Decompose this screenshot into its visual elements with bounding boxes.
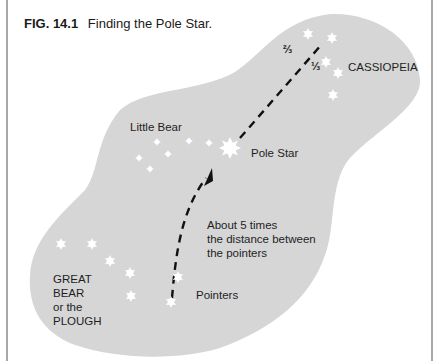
label-one-third: ⅓ — [311, 60, 320, 72]
great-bear-line-1: GREAT — [53, 272, 102, 286]
label-two-thirds: ⅔ — [283, 43, 292, 55]
great-bear-line-4: PLOUGH — [53, 314, 102, 328]
distance-note-line-2: the distance between — [207, 232, 316, 246]
label-pole-star: Pole Star — [251, 146, 298, 160]
great-bear-line-3: or the — [53, 300, 102, 314]
label-great-bear: GREAT BEAR or the PLOUGH — [53, 272, 102, 328]
label-distance-note: About 5 times the distance between the p… — [207, 218, 316, 260]
label-pointers: Pointers — [196, 288, 238, 302]
label-cassiopeia: CASSIOPEIA — [348, 60, 418, 74]
great-bear-line-2: BEAR — [53, 286, 102, 300]
distance-note-line-1: About 5 times — [207, 218, 316, 232]
label-little-bear: Little Bear — [130, 120, 182, 134]
distance-note-line-3: the pointers — [207, 246, 316, 260]
